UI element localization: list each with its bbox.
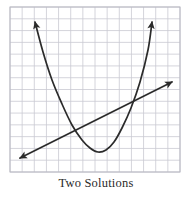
grid-paper (10, 7, 180, 172)
figure-caption: Two Solutions (0, 176, 192, 191)
two-solutions-figure (0, 0, 192, 201)
